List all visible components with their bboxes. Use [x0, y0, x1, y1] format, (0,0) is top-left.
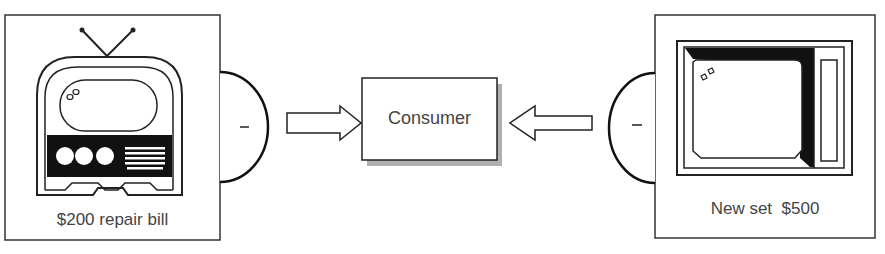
consumer-label: Consumer [362, 108, 497, 129]
right-minus-bubble [609, 73, 655, 183]
arrow-left-to-consumer [287, 106, 361, 140]
new-set-label: New set $500 [655, 199, 875, 219]
repair-bill-label: $200 repair bill [5, 210, 220, 230]
left-panel [5, 15, 268, 240]
new-tv-icon [677, 41, 852, 175]
arrow-right-to-consumer [510, 106, 592, 140]
